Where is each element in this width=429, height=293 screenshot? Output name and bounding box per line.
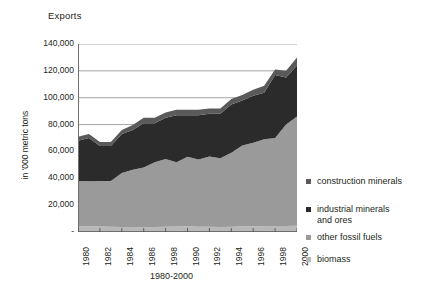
stacked-area-plot (78, 44, 297, 232)
y-tick-label: 60,000 (18, 146, 74, 155)
legend-swatch-icon (306, 179, 311, 184)
plot-area (78, 44, 297, 232)
y-tick-label: - (18, 227, 74, 236)
x-axis-tick-labels: 1980198219841986199819901992199419961998… (78, 236, 297, 270)
x-tick-label: 1996 (257, 247, 266, 266)
y-tick-label: 20,000 (18, 200, 74, 209)
y-tick-label: 100,000 (18, 93, 74, 102)
x-axis-title: 1980-2000 (150, 271, 193, 281)
legend-item[interactable]: industrial minerals and ores (306, 204, 390, 226)
legend-item[interactable]: construction minerals (306, 176, 402, 187)
legend-label: other fossil fuels (317, 232, 382, 243)
x-tick-label: 1998 (170, 247, 179, 266)
x-tick-label: 1982 (104, 247, 113, 266)
x-tick-label: 1990 (192, 247, 201, 266)
legend-swatch-icon (306, 235, 311, 240)
legend-swatch-icon (306, 257, 311, 262)
x-tick-label: 1998 (279, 247, 288, 266)
x-tick-label: 1994 (235, 247, 244, 266)
y-axis-tick-labels: -20,00040,00060,00080,000100,000120,0001… (16, 0, 74, 293)
y-tick-label: 120,000 (18, 66, 74, 75)
legend-label: industrial minerals and ores (317, 204, 390, 226)
y-tick-label: 40,000 (18, 173, 74, 182)
chart-figure: Exports in '000 metric tons -20,00040,00… (0, 0, 429, 293)
x-tick-label: 1984 (126, 247, 135, 266)
legend-item[interactable]: biomass (306, 254, 351, 265)
legend-item[interactable]: other fossil fuels (306, 232, 382, 243)
legend-label: construction minerals (317, 176, 402, 187)
x-tick-label: 1986 (148, 247, 157, 266)
legend-label: biomass (317, 254, 351, 265)
y-tick-label: 80,000 (18, 120, 74, 129)
y-tick-label: 140,000 (18, 39, 74, 48)
x-tick-label: 1980 (82, 247, 91, 266)
x-tick-label: 1992 (213, 247, 222, 266)
legend-swatch-icon (306, 207, 311, 212)
